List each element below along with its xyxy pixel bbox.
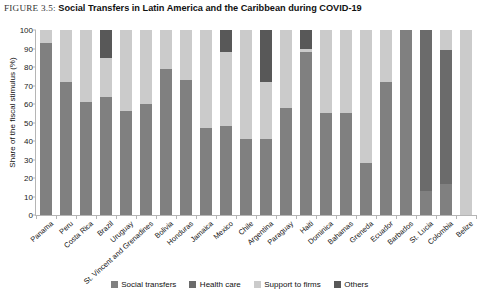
- bar-stack[interactable]: [260, 30, 272, 215]
- bar-stack[interactable]: [40, 30, 52, 215]
- x-axis-tick-mark: [136, 215, 137, 219]
- legend-item[interactable]: Others: [334, 280, 369, 289]
- bar-segment[interactable]: [140, 104, 152, 215]
- bar-stack[interactable]: [400, 30, 412, 215]
- bar-stack[interactable]: [100, 30, 112, 215]
- bar-segment[interactable]: [80, 30, 92, 102]
- figure-caption-text: Social Transfers in Latin America and th…: [58, 3, 361, 13]
- bar-stack[interactable]: [340, 30, 352, 215]
- bar-segment[interactable]: [120, 111, 132, 215]
- bar-segment[interactable]: [220, 52, 232, 126]
- bar-segment[interactable]: [280, 30, 292, 108]
- legend-swatch-icon: [111, 281, 118, 288]
- y-axis-tick-label: 70: [24, 81, 33, 90]
- bar-segment[interactable]: [280, 108, 292, 215]
- bar-segment[interactable]: [180, 30, 192, 80]
- bar-stack[interactable]: [140, 30, 152, 215]
- y-axis-tick-mark: [33, 48, 36, 49]
- bar-segment[interactable]: [60, 82, 72, 215]
- bar-stack[interactable]: [200, 30, 212, 215]
- bar-segment[interactable]: [200, 30, 212, 128]
- y-axis-tick-label: 10: [24, 192, 33, 201]
- bar-segment[interactable]: [400, 30, 412, 215]
- bar-stack[interactable]: [320, 30, 332, 215]
- bar-segment[interactable]: [260, 30, 272, 82]
- bar-segment[interactable]: [460, 30, 472, 215]
- bar-segment[interactable]: [100, 97, 112, 215]
- y-axis-title: Share of the fiscal stimulus (%): [8, 38, 17, 188]
- bar-segment[interactable]: [320, 113, 332, 215]
- bar-segment[interactable]: [440, 30, 452, 50]
- bar-segment[interactable]: [140, 30, 152, 104]
- y-axis-tick-mark: [33, 178, 36, 179]
- bar-segment[interactable]: [440, 50, 452, 183]
- bar-segment[interactable]: [440, 184, 452, 215]
- bar-segment[interactable]: [340, 30, 352, 113]
- bar-segment[interactable]: [240, 30, 252, 139]
- bar-segment[interactable]: [260, 139, 272, 215]
- x-axis-tick-mark: [296, 215, 297, 219]
- legend-swatch-icon: [189, 281, 196, 288]
- bar-segment[interactable]: [40, 30, 52, 43]
- bar-segment[interactable]: [60, 30, 72, 82]
- x-axis-tick-mark: [196, 215, 197, 219]
- bar-segment[interactable]: [160, 69, 172, 215]
- bar-stack[interactable]: [280, 30, 292, 215]
- x-axis-tick-mark: [156, 215, 157, 219]
- bar-stack[interactable]: [80, 30, 92, 215]
- x-axis-tick-mark: [376, 215, 377, 219]
- legend-item[interactable]: Support to firms: [254, 280, 321, 289]
- plot-region: 0102030405060708090100: [36, 30, 476, 215]
- bar-segment[interactable]: [420, 191, 432, 215]
- bar-segment[interactable]: [80, 102, 92, 215]
- bar-stack[interactable]: [440, 30, 452, 215]
- bar-segment[interactable]: [40, 43, 52, 215]
- bar-segment[interactable]: [200, 128, 212, 215]
- y-axis-tick-label: 20: [24, 174, 33, 183]
- legend-item[interactable]: Social transfers: [111, 280, 177, 289]
- chart-area: Share of the fiscal stimulus (%) 0102030…: [0, 16, 479, 274]
- figure-number-label: FIGURE 3.5:: [4, 3, 56, 13]
- bar-segment[interactable]: [260, 82, 272, 139]
- bar-segment[interactable]: [420, 30, 432, 191]
- bar-stack[interactable]: [300, 30, 312, 215]
- x-axis-tick-mark: [256, 215, 257, 219]
- x-axis-tick-mark: [416, 215, 417, 219]
- bar-segment[interactable]: [180, 80, 192, 215]
- bar-stack[interactable]: [380, 30, 392, 215]
- legend-item-label: Health care: [200, 280, 241, 289]
- y-axis-tick-mark: [33, 104, 36, 105]
- legend-item[interactable]: Health care: [189, 280, 240, 289]
- y-axis-tick-label: 40: [24, 137, 33, 146]
- x-axis-tick-mark: [476, 215, 477, 219]
- bar-stack[interactable]: [60, 30, 72, 215]
- bar-stack[interactable]: [460, 30, 472, 215]
- bar-segment[interactable]: [160, 30, 172, 69]
- bar-segment[interactable]: [340, 113, 352, 215]
- legend-item-label: Social transfers: [121, 280, 176, 289]
- bar-segment[interactable]: [220, 126, 232, 215]
- bar-segment[interactable]: [100, 30, 112, 58]
- bar-segment[interactable]: [320, 30, 332, 113]
- bar-stack[interactable]: [420, 30, 432, 215]
- bar-segment[interactable]: [100, 58, 112, 97]
- bar-stack[interactable]: [220, 30, 232, 215]
- bar-stack[interactable]: [180, 30, 192, 215]
- x-axis-tick-mark: [396, 215, 397, 219]
- bar-segment[interactable]: [220, 30, 232, 52]
- bar-segment[interactable]: [360, 30, 372, 163]
- bar-segment[interactable]: [300, 52, 312, 215]
- bar-segment[interactable]: [300, 30, 312, 49]
- bar-segment[interactable]: [240, 139, 252, 215]
- bar-segment[interactable]: [380, 82, 392, 215]
- x-axis-tick-mark: [76, 215, 77, 219]
- bar-segment[interactable]: [380, 30, 392, 82]
- bar-segment[interactable]: [120, 30, 132, 111]
- bar-stack[interactable]: [160, 30, 172, 215]
- bar-stack[interactable]: [120, 30, 132, 215]
- bar-segment[interactable]: [360, 163, 372, 215]
- bar-segment[interactable]: [300, 49, 312, 53]
- bar-stack[interactable]: [360, 30, 372, 215]
- bar-stack[interactable]: [240, 30, 252, 215]
- legend-item-label: Support to firms: [264, 280, 320, 289]
